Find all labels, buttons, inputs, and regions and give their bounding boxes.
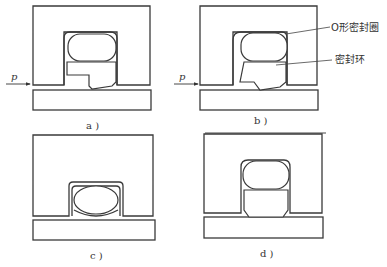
panel-d: d ) bbox=[204, 134, 323, 259]
base-plate-b bbox=[200, 90, 318, 110]
base-plate-d bbox=[204, 217, 323, 238]
panel-b: p b ) O形密封圈 密封环 bbox=[174, 6, 379, 133]
o-ring-leader bbox=[286, 27, 330, 34]
seal-ring-a bbox=[67, 62, 116, 89]
base-plate-c bbox=[33, 220, 155, 240]
caption-d: d ) bbox=[260, 248, 274, 259]
panel-c: c ) bbox=[33, 135, 155, 261]
o-ring-c bbox=[74, 186, 118, 214]
caption-b: b ) bbox=[254, 115, 268, 126]
seal-ring-b bbox=[240, 62, 286, 90]
seal-ring-callout: 密封环 bbox=[335, 53, 365, 65]
panel-a: p a ) bbox=[6, 6, 151, 131]
seal-diagram: p a ) p b ) O形密封圈 密封环 c ) d ) bbox=[0, 0, 387, 267]
caption-c: c ) bbox=[90, 250, 103, 261]
o-ring-callout: O形密封圈 bbox=[331, 21, 379, 33]
o-ring-b bbox=[241, 33, 287, 61]
o-ring-d bbox=[243, 161, 289, 189]
pressure-label-b: p bbox=[179, 71, 186, 82]
base-plate-a bbox=[33, 90, 151, 110]
caption-a: a ) bbox=[86, 120, 99, 131]
seal-ring-d bbox=[244, 190, 288, 217]
pressure-label-a: p bbox=[11, 71, 18, 82]
o-ring-a bbox=[68, 34, 116, 61]
